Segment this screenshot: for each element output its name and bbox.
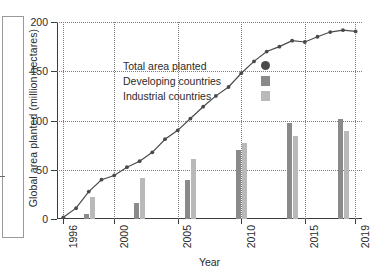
y-tick-label-50: 50 bbox=[36, 164, 48, 176]
legend-marker-circle-icon bbox=[261, 61, 270, 70]
y-tick-label-200: 200 bbox=[30, 16, 48, 28]
adjacent-panel-edge bbox=[2, 16, 24, 238]
legend-label-total: Total area planted bbox=[123, 60, 251, 72]
line-data-point bbox=[341, 28, 345, 32]
x-tick-label-2015: 2015 bbox=[308, 225, 320, 248]
line-data-point bbox=[150, 150, 154, 154]
line-data-point bbox=[100, 178, 104, 182]
chart-figure: Global area planted (million hectares) 2… bbox=[0, 0, 372, 276]
line-data-point bbox=[328, 30, 332, 34]
x-axis-title: Year bbox=[57, 256, 362, 268]
y-tick-0 bbox=[51, 219, 57, 220]
x-tick-2000 bbox=[114, 219, 115, 224]
line-data-point bbox=[354, 30, 358, 34]
legend-label-developing: Developing countries bbox=[123, 75, 251, 87]
legend-marker-square-developing-icon bbox=[261, 76, 270, 86]
line-data-point bbox=[176, 128, 180, 132]
line-data-point bbox=[303, 40, 307, 44]
x-tick-1996 bbox=[63, 219, 64, 224]
line-data-point bbox=[87, 190, 91, 194]
x-tick-label-2005: 2005 bbox=[181, 225, 193, 248]
x-tick-2015 bbox=[305, 219, 306, 224]
legend-item-total: Total area planted bbox=[123, 58, 270, 73]
plot-area: 200 150 100 50 0 1996 2000 2005 2010 201… bbox=[57, 22, 362, 219]
legend-label-industrial: Industrial countries bbox=[123, 90, 251, 102]
x-tick-label-1996: 1996 bbox=[67, 225, 79, 248]
line-data-point bbox=[201, 105, 205, 109]
line-data-point bbox=[265, 50, 269, 54]
y-tick-label-100: 100 bbox=[30, 115, 48, 127]
line-data-point bbox=[138, 159, 142, 163]
y-tick-label-150: 150 bbox=[30, 65, 48, 77]
x-tick-2010 bbox=[241, 219, 242, 224]
y-tick-label-0: 0 bbox=[42, 213, 48, 225]
legend-marker-square-industrial-icon bbox=[261, 91, 270, 101]
line-data-point bbox=[189, 117, 193, 121]
line-data-point bbox=[74, 206, 78, 210]
x-tick-2019 bbox=[355, 219, 356, 224]
line-data-point bbox=[316, 35, 320, 39]
x-tick-label-2010: 2010 bbox=[245, 225, 257, 248]
total-area-line-series bbox=[57, 22, 362, 219]
legend-item-developing: Developing countries bbox=[123, 73, 270, 88]
adjacent-panel-tick bbox=[0, 176, 5, 177]
line-data-point bbox=[278, 45, 282, 49]
x-tick-label-2019: 2019 bbox=[359, 225, 371, 248]
legend-item-industrial: Industrial countries bbox=[123, 88, 270, 103]
line-data-point bbox=[125, 165, 129, 169]
line-data-point bbox=[112, 174, 116, 178]
x-tick-label-2000: 2000 bbox=[118, 225, 130, 248]
line-data-point bbox=[290, 39, 294, 43]
line-data-point bbox=[61, 215, 65, 219]
chart-legend: Total area planted Developing countries … bbox=[123, 58, 270, 103]
line-data-point bbox=[163, 137, 167, 141]
x-tick-2005 bbox=[178, 219, 179, 224]
